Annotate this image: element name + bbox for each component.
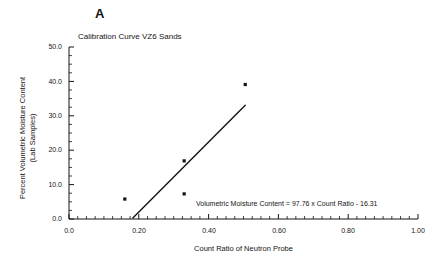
figure-panel: A Calibration Curve VZ6 Sands Percent Vo…	[0, 0, 440, 269]
data-point-1	[183, 192, 186, 195]
data-point-2	[183, 159, 186, 162]
x-axis	[69, 214, 418, 219]
regression-line-segment	[133, 105, 245, 218]
data-points	[123, 83, 247, 201]
y-axis	[69, 47, 74, 219]
regression-line	[133, 105, 245, 218]
data-point-0	[123, 197, 126, 200]
data-point-3	[244, 83, 247, 86]
plot-area	[0, 0, 440, 269]
